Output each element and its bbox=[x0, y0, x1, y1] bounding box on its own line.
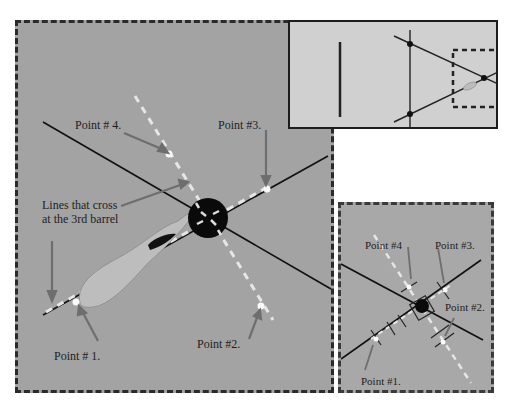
label-lines-cross-1: Lines that cross bbox=[42, 198, 117, 212]
label-point-1: Point # 1. bbox=[54, 349, 100, 363]
label-lines-cross-2: at the 3rd barrel bbox=[42, 212, 118, 226]
point-3-marker bbox=[264, 186, 271, 193]
small-label-point-4: Point #4 bbox=[365, 239, 402, 252]
label-point-2: Point #2. bbox=[197, 337, 240, 351]
small-label-point-3: Point #3. bbox=[435, 239, 475, 252]
arrow-lines-cross bbox=[121, 184, 183, 206]
point-2-marker bbox=[258, 303, 265, 310]
third-barrel-circle-small bbox=[415, 299, 429, 313]
main-diagram-panel: Point # 4. Point #3. Lines that cross at… bbox=[15, 20, 334, 393]
overview-graphic bbox=[290, 22, 496, 127]
third-barrel-circle bbox=[188, 198, 228, 238]
small-label-point-1: Point #1. bbox=[361, 375, 401, 388]
arrow-point-2 bbox=[249, 315, 258, 339]
label-point-4: Point # 4. bbox=[75, 118, 121, 132]
detail-graphic bbox=[341, 205, 491, 390]
zoom-region-box bbox=[453, 50, 496, 107]
overview-inset-panel bbox=[288, 20, 498, 129]
arrow-point-1 bbox=[82, 311, 98, 341]
label-point-3: Point #3. bbox=[218, 118, 261, 132]
detail-panel: Point #4 Point #3. Point #2. Point #1. bbox=[338, 202, 494, 393]
elongated-body-shape bbox=[79, 214, 191, 307]
small-label-point-2: Point #2. bbox=[445, 301, 485, 314]
